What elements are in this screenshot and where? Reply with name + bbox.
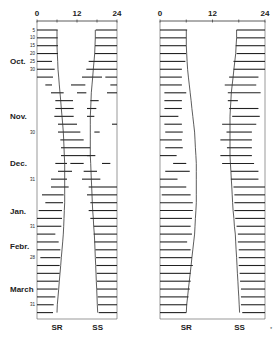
day-label: 10 <box>30 35 36 40</box>
sr-label: SR <box>181 323 192 332</box>
tick-label: 0 <box>158 9 163 18</box>
day-label: 5 <box>32 28 35 33</box>
activity-chart: 01224SRSS01224SRSSOct.Nov.Dec.Jan.Febr.M… <box>0 0 277 337</box>
day-label: 25 <box>30 59 36 64</box>
tick-label: 0 <box>35 9 40 18</box>
day-label: 30 <box>30 67 36 72</box>
ss-label: SS <box>92 323 103 332</box>
month-label: Jan. <box>10 207 26 216</box>
day-label: 20 <box>30 51 36 56</box>
day-label: 31 <box>30 224 36 229</box>
chart-canvas: 01224SRSS01224SRSSOct.Nov.Dec.Jan.Febr.M… <box>0 0 277 337</box>
day-label: 15 <box>30 43 36 48</box>
month-label: Febr. <box>10 242 29 251</box>
ss-label: SS <box>234 323 245 332</box>
month-label: March <box>10 285 34 294</box>
tick-label: 12 <box>208 9 217 18</box>
corner-mark: * <box>270 327 272 332</box>
month-label: Nov. <box>10 112 27 121</box>
day-label: 31 <box>30 302 36 307</box>
tick-label: 24 <box>113 9 122 18</box>
month-label: Dec. <box>10 159 27 168</box>
month-label: Oct. <box>10 57 26 66</box>
day-label: 30 <box>30 130 36 135</box>
tick-label: 12 <box>73 9 82 18</box>
day-label: 28 <box>30 255 36 260</box>
tick-label: 24 <box>261 9 270 18</box>
sr-label: SR <box>51 323 62 332</box>
day-label: 31 <box>30 177 36 182</box>
